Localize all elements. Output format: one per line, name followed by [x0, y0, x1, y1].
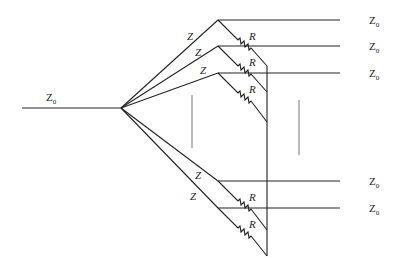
resistor-1 — [218, 20, 267, 66]
resistor-4-label: R — [248, 191, 256, 203]
resistor-2 — [218, 46, 267, 92]
output-port-4-label: Z0 — [369, 175, 380, 190]
branch-2-z-label: Z — [195, 46, 202, 58]
branch-4-z-label: Z — [195, 169, 202, 181]
resistor-4 — [218, 181, 267, 230]
branch-5-z-label: Z — [190, 190, 197, 202]
output-port-1-label: Z0 — [369, 14, 380, 29]
n-way-power-divider-diagram: Z0 Z Z Z Z Z Z0 Z0 Z0 Z0 Z0 R R R — [0, 0, 403, 269]
resistor-2-label: R — [248, 56, 256, 68]
output-port-3-label: Z0 — [369, 67, 380, 82]
input-port-label: Z0 — [46, 91, 57, 106]
resistor-3-label: R — [248, 83, 256, 95]
output-lines — [218, 20, 340, 208]
branch-1-z-label: Z — [187, 30, 194, 42]
resistor-5-label: R — [248, 218, 256, 230]
output-port-2-label: Z0 — [369, 40, 380, 55]
branch-3-z-label: Z — [200, 64, 207, 76]
output-port-5-label: Z0 — [369, 202, 380, 217]
branch-lines — [121, 20, 218, 208]
resistor-3 — [218, 73, 267, 122]
resistor-5 — [218, 208, 267, 256]
resistor-1-label: R — [248, 30, 256, 42]
